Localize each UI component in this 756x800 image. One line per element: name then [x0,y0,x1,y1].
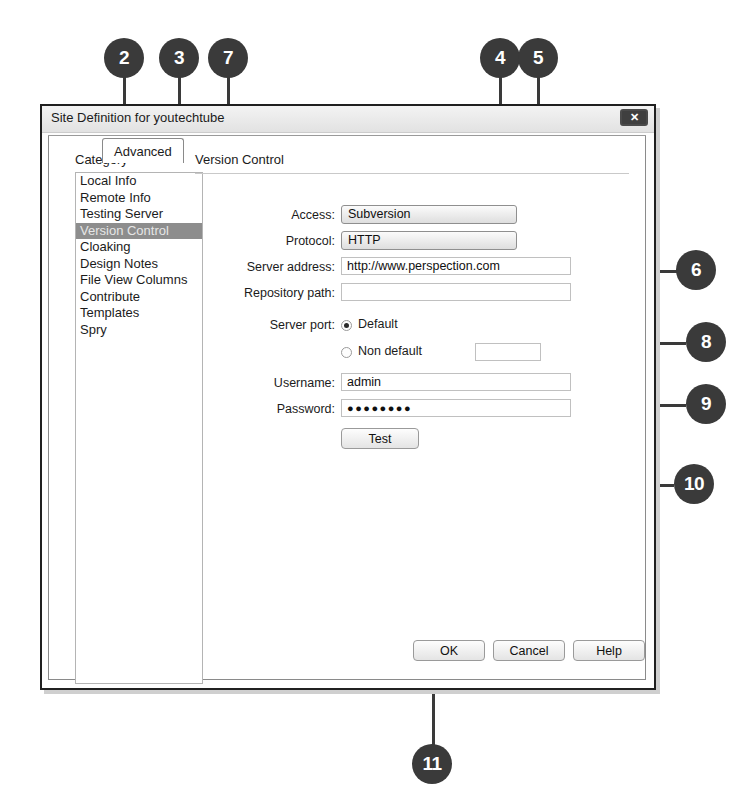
repository-path-input[interactable] [341,283,571,301]
title-bar: Site Definition for youtechtube ✕ [42,106,654,133]
ok-button[interactable]: OK [413,640,485,661]
password-input[interactable]: ●●●●●●●● [341,399,571,417]
callout-3: 3 [159,38,199,78]
access-label: Access: [235,208,335,222]
callout-6: 6 [676,250,716,290]
callout-9: 9 [686,384,726,424]
list-item[interactable]: Remote Info [76,190,202,207]
section-divider [195,173,629,174]
window-title: Site Definition for youtechtube [51,110,224,125]
repository-path-label: Repository path: [215,286,335,300]
list-item[interactable]: Testing Server [76,206,202,223]
server-address-label: Server address: [215,260,335,274]
category-list[interactable]: Local Info Remote Info Testing Server Ve… [75,172,203,684]
server-address-input[interactable]: http://www.perspection.com [341,257,571,275]
site-definition-dialog: Site Definition for youtechtube ✕ Basic … [40,104,656,690]
callout-7: 7 [208,38,248,78]
password-label: Password: [235,402,335,416]
callout-8: 8 [686,322,726,362]
callout-5: 5 [518,38,558,78]
list-item[interactable]: Cloaking [76,239,202,256]
callout-11: 11 [412,744,452,784]
port-nondefault-radio[interactable] [341,347,352,358]
list-item[interactable]: Local Info [76,173,202,190]
username-input[interactable]: admin [341,373,571,391]
access-dropdown[interactable]: Subversion [341,205,517,224]
close-icon[interactable]: ✕ [620,109,648,126]
section-title: Version Control [195,152,284,167]
username-label: Username: [235,376,335,390]
protocol-dropdown[interactable]: HTTP [341,231,517,250]
list-item[interactable]: Design Notes [76,256,202,273]
list-item[interactable]: Spry [76,322,202,339]
list-item-version-control[interactable]: Version Control [76,223,202,240]
port-default-radio[interactable] [341,320,352,331]
cancel-button[interactable]: Cancel [493,640,565,661]
list-item[interactable]: Templates [76,305,202,322]
port-nondefault-input[interactable] [475,343,541,361]
port-nondefault-label: Non default [358,344,422,358]
port-default-label: Default [358,317,398,331]
tab-advanced[interactable]: Advanced [102,138,184,163]
help-button[interactable]: Help [573,640,645,661]
protocol-label: Protocol: [235,234,335,248]
callout-10: 10 [674,464,714,504]
tab-separator [48,135,646,136]
list-item[interactable]: Contribute [76,289,202,306]
advanced-panel: Category Local Info Remote Info Testing … [48,136,646,680]
list-item[interactable]: File View Columns [76,272,202,289]
server-port-label: Server port: [235,318,335,332]
callout-2: 2 [104,38,144,78]
test-button[interactable]: Test [341,428,419,449]
callout-4: 4 [480,38,520,78]
